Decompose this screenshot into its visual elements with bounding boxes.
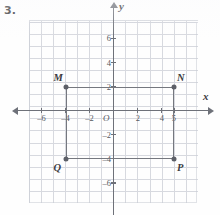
worksheet-page: 3. x y O –6–4–2245642–2–4–6 MNPQ	[0, 0, 220, 215]
problem-number: 3.	[4, 4, 16, 17]
vertex-point-Q	[63, 156, 68, 161]
vertex-label-P: P	[177, 162, 183, 173]
y-tick-label-6: 6	[101, 33, 111, 43]
y-axis-label: y	[119, 0, 124, 12]
y-tick-label--6: –6	[101, 178, 111, 188]
y-tick-6	[111, 38, 116, 39]
x-axis-label: x	[203, 90, 209, 102]
vertex-point-M	[63, 84, 68, 89]
x-axis-right-arrow-icon	[208, 107, 214, 115]
y-axis-up-arrow-icon	[110, 2, 118, 8]
vertex-label-Q: Q	[54, 162, 62, 173]
vertex-point-N	[171, 84, 176, 89]
y-tick-4	[111, 62, 116, 63]
vertex-point-P	[171, 156, 176, 161]
vertex-label-N: N	[177, 72, 185, 83]
coordinate-plane: x y O –6–4–2245642–2–4–6 MNPQ	[29, 20, 198, 203]
rectangle-MNPQ	[66, 87, 174, 159]
x-tick-label--6: –6	[37, 113, 46, 123]
y-tick--6	[111, 182, 116, 183]
y-tick-label-4: 4	[101, 58, 111, 68]
vertex-label-M: M	[54, 72, 63, 83]
x-axis-left-arrow-icon	[12, 107, 18, 115]
